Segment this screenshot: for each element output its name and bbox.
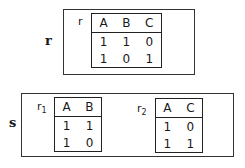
- table-cell: 1: [55, 134, 78, 152]
- relation-r-table: A B C 1 1 0 1 0 1: [91, 13, 162, 68]
- relation-r2-label: r2: [137, 102, 147, 117]
- table-cell: 0: [179, 118, 203, 136]
- table-row: 1 0: [156, 118, 203, 136]
- table-header-row: A B: [55, 98, 102, 117]
- table-row: 1 1: [156, 135, 203, 153]
- table-header-row: A C: [156, 99, 203, 118]
- relation-r1-label: r1: [37, 100, 47, 115]
- column-header: B: [78, 98, 102, 117]
- table-row: 1 0 1: [92, 50, 162, 68]
- table-cell: 1: [179, 135, 203, 153]
- column-header: C: [137, 14, 161, 33]
- column-header: A: [55, 98, 78, 117]
- relation-s-outer-label: s: [9, 115, 16, 130]
- column-header: B: [115, 14, 137, 33]
- table-row: 1 1: [55, 117, 102, 135]
- column-header: C: [179, 99, 203, 118]
- table-cell: 1: [55, 117, 78, 135]
- column-header: A: [156, 99, 179, 118]
- table-cell: 1: [137, 50, 161, 68]
- relation-r-inner-label: r: [78, 15, 83, 28]
- column-header: A: [92, 14, 116, 33]
- table-cell: 0: [115, 50, 137, 68]
- table-cell: 0: [78, 134, 102, 152]
- relation-r-outer-label: r: [45, 33, 52, 48]
- relation-r1-table: A B 1 1 1 0: [54, 97, 102, 152]
- table-cell: 0: [137, 33, 161, 51]
- table-header-row: A B C: [92, 14, 162, 33]
- table-cell: 1: [156, 135, 179, 153]
- table-cell: 1: [115, 33, 137, 51]
- table-row: 1 1 0: [92, 33, 162, 51]
- table-cell: 1: [92, 33, 116, 51]
- table-cell: 1: [78, 117, 102, 135]
- table-cell: 1: [156, 118, 179, 136]
- table-row: 1 0: [55, 134, 102, 152]
- relation-r2-table: A C 1 0 1 1: [155, 98, 203, 153]
- table-cell: 1: [92, 50, 116, 68]
